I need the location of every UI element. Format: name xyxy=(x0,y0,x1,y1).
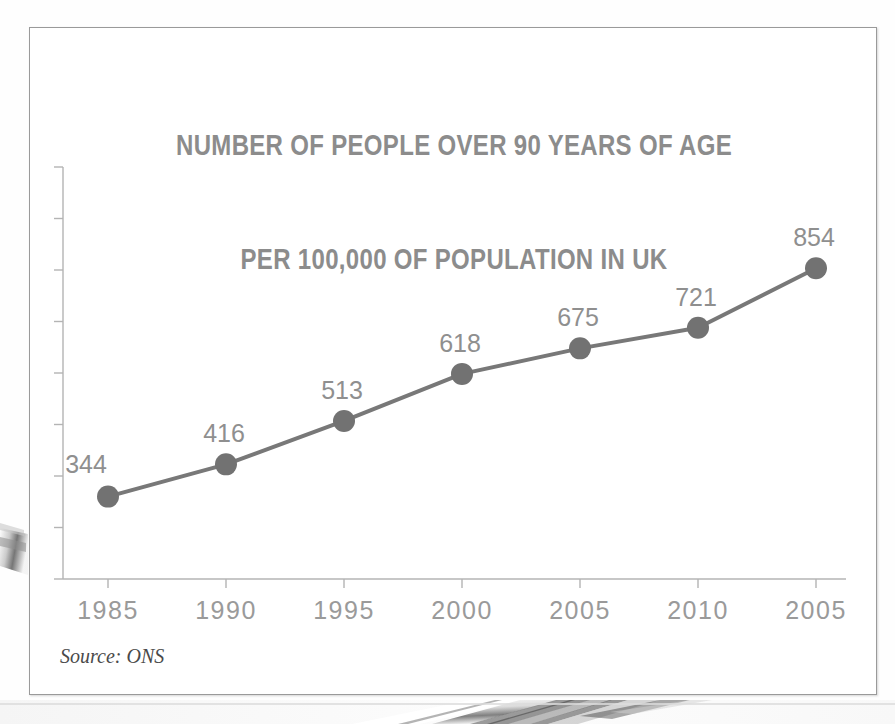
x-axis-tick-label: 1995 xyxy=(313,596,375,624)
x-axis-tick-labels: 1985199019952000200520102005 xyxy=(77,596,847,624)
x-axis-tick-label: 1990 xyxy=(195,596,257,624)
data-point-label: 675 xyxy=(557,303,599,331)
x-axis-tick-label: 1985 xyxy=(77,596,139,624)
x-axis-ticks xyxy=(108,579,816,588)
x-axis-tick-label: 2010 xyxy=(667,596,729,624)
data-point-label: 344 xyxy=(65,450,107,478)
line-chart: 1985199019952000200520102005 34441651361… xyxy=(30,28,878,696)
data-point-marker xyxy=(215,453,237,475)
x-axis-tick-label: 2005 xyxy=(549,596,611,624)
x-axis-tick-label: 2005 xyxy=(785,596,847,624)
series-data-labels: 344416513618675721854 xyxy=(65,223,835,477)
data-point-marker xyxy=(687,317,709,339)
data-point-marker xyxy=(333,410,355,432)
data-point-marker xyxy=(569,337,591,359)
source-note: Source: ONS xyxy=(60,645,164,668)
data-point-label: 416 xyxy=(203,419,245,447)
data-point-marker xyxy=(97,486,119,508)
data-point-label: 513 xyxy=(321,376,363,404)
data-point-marker xyxy=(451,363,473,385)
y-axis-ticks xyxy=(54,167,63,579)
page-edge-bottom-artifact xyxy=(0,700,895,724)
data-point-label: 618 xyxy=(439,329,481,357)
data-point-label: 854 xyxy=(793,223,835,251)
x-axis-tick-label: 2000 xyxy=(431,596,493,624)
page-edge-left-artifact xyxy=(0,523,28,575)
data-point-label: 721 xyxy=(675,283,717,311)
figure-frame: NUMBER OF PEOPLE OVER 90 YEARS OF AGE PE… xyxy=(29,27,877,695)
data-point-marker xyxy=(805,257,827,279)
